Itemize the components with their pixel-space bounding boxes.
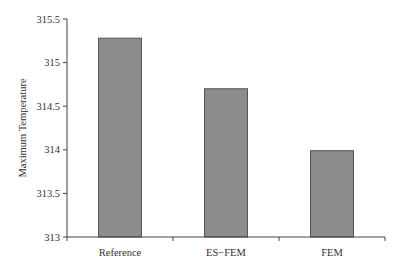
x-axis: ReferenceES−FEMFEM <box>67 237 385 258</box>
x-category-label: FEM <box>321 247 343 258</box>
y-tick-label: 313.5 <box>36 188 60 199</box>
y-tick-label: 315.5 <box>36 14 60 25</box>
y-axis: 313313.5314314.5315315.5 <box>36 14 67 243</box>
bar-es-fem <box>205 89 248 237</box>
bars <box>99 38 354 237</box>
x-category-label: ES−FEM <box>206 247 246 258</box>
bar-fem <box>311 151 354 237</box>
y-tick-label: 313 <box>44 232 60 243</box>
bar-reference <box>99 38 142 237</box>
y-tick-label: 314.5 <box>36 101 60 112</box>
y-axis-title: Maximum Temperature <box>17 78 28 177</box>
y-tick-label: 314 <box>44 144 61 155</box>
x-category-label: Reference <box>99 247 142 258</box>
bar-chart: Maximum Temperature 313313.5314314.53153… <box>0 0 407 266</box>
y-tick-label: 315 <box>44 57 60 68</box>
y-axis-title-group: Maximum Temperature <box>17 78 28 177</box>
